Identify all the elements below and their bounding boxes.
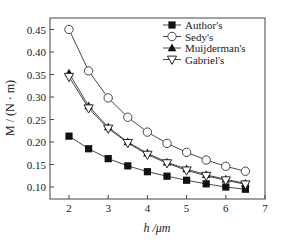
x-tick-label: 2: [66, 202, 72, 214]
circle-marker: [143, 128, 151, 136]
triangle-up-marker: [168, 44, 177, 52]
square-marker: [168, 21, 175, 28]
y-tick-label: 0.20: [27, 136, 47, 148]
square-marker: [163, 173, 170, 180]
legend-item: Sedy's: [163, 31, 213, 43]
triangle-down-marker: [167, 56, 176, 64]
legend: Author'sSedy'sMuijderman'sGabriel's: [163, 19, 246, 66]
series-authors: [65, 133, 249, 193]
x-axis: 234567: [66, 195, 268, 214]
y-tick-label: 0.45: [27, 24, 47, 36]
legend-item: Author's: [163, 19, 222, 31]
x-tick-label: 4: [145, 202, 151, 214]
y-tick-label: 0.40: [27, 46, 47, 58]
series-line: [69, 77, 245, 185]
square-marker: [105, 155, 112, 162]
circle-marker: [84, 67, 92, 75]
square-marker: [124, 162, 131, 169]
y-tick-label: 0.25: [27, 114, 47, 126]
y-axis-label: M / (N · m): [3, 80, 17, 136]
circle-marker: [65, 25, 73, 33]
legend-label: Sedy's: [185, 31, 213, 43]
legend-label: Muijderman's: [185, 42, 246, 54]
y-tick-label: 0.10: [27, 181, 47, 193]
x-tick-label: 6: [223, 202, 229, 214]
circle-marker: [202, 156, 210, 164]
x-tick-label: 7: [262, 202, 268, 214]
line-chart: 0.100.150.200.250.300.350.400.45 234567 …: [0, 0, 283, 241]
y-tick-label: 0.35: [27, 69, 47, 81]
square-marker: [144, 168, 151, 175]
square-marker: [65, 133, 72, 140]
legend-label: Gabriel's: [185, 54, 224, 66]
circle-marker: [182, 148, 190, 156]
square-marker: [183, 177, 190, 184]
series-line: [69, 73, 245, 183]
x-tick-label: 3: [105, 202, 111, 214]
square-marker: [85, 145, 92, 152]
y-tick-label: 0.15: [27, 159, 47, 171]
circle-marker: [104, 94, 112, 102]
triangle-down-marker: [64, 73, 73, 81]
circle-marker: [168, 32, 176, 40]
legend-item: Gabriel's: [163, 54, 224, 66]
series-gabriels: [64, 73, 250, 189]
circle-marker: [124, 113, 132, 121]
x-tick-label: 5: [184, 202, 190, 214]
legend-item: Muijderman's: [163, 42, 246, 54]
legend-label: Author's: [185, 19, 222, 31]
series-line: [69, 136, 245, 189]
circle-marker: [163, 139, 171, 147]
circle-marker: [222, 162, 230, 170]
circle-marker: [241, 167, 249, 175]
y-tick-label: 0.30: [27, 91, 47, 103]
x-axis-label: h /μm: [143, 221, 170, 235]
